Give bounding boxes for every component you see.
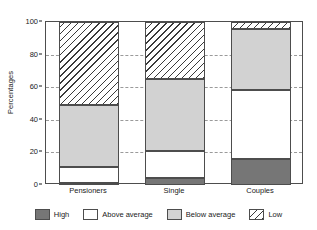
y-tick-mark <box>39 151 42 152</box>
legend-label: Low <box>268 210 282 219</box>
y-tick-mark <box>39 86 42 87</box>
stacked-bar-chart: Percentages 020406080100 PensionersSingl… <box>0 0 317 230</box>
bar-segment-below-average <box>231 29 291 91</box>
y-tick-label: 0 <box>34 180 38 189</box>
x-axis: PensionersSingleCouples <box>45 186 303 202</box>
bars-layer <box>46 22 302 183</box>
x-tick-label-single: Single <box>164 186 185 195</box>
bar-segment-low <box>59 22 119 105</box>
y-tick-mark <box>39 53 42 54</box>
legend-swatch-icon <box>249 209 264 220</box>
bar-segment-below-average <box>145 79 205 151</box>
bar-single <box>145 22 205 183</box>
bar-pensioners <box>59 22 119 183</box>
bar-segment-below-average <box>59 105 119 167</box>
y-tick-label: 20 <box>30 147 38 156</box>
y-axis-title-text: Percentages <box>7 71 16 114</box>
legend-label: Above average <box>102 210 152 219</box>
legend-item-below-average[interactable]: Below average <box>167 209 236 220</box>
bar-segment-high <box>145 178 205 185</box>
y-axis-title: Percentages <box>4 0 18 185</box>
legend-item-above-average[interactable]: Above average <box>83 209 152 220</box>
bar-segment-low <box>231 22 291 29</box>
legend-label: High <box>54 210 69 219</box>
y-tick-label: 40 <box>30 114 38 123</box>
bar-segment-above-average <box>59 167 119 183</box>
y-tick-mark <box>39 118 42 119</box>
y-tick-label: 60 <box>30 82 38 91</box>
y-tick-mark <box>39 21 42 22</box>
plot-area <box>45 21 303 184</box>
bar-segment-low <box>145 22 205 79</box>
legend-item-low[interactable]: Low <box>249 209 282 220</box>
bar-couples <box>231 22 291 183</box>
bar-segment-above-average <box>231 90 291 158</box>
bar-segment-above-average <box>145 151 205 179</box>
bar-segment-high <box>231 159 291 185</box>
y-tick-mark <box>39 184 42 185</box>
y-axis: 020406080100 <box>18 21 42 184</box>
legend-swatch-icon <box>35 209 50 220</box>
legend-label: Below average <box>186 210 236 219</box>
legend-item-high[interactable]: High <box>35 209 69 220</box>
y-tick-label: 100 <box>25 17 38 26</box>
x-tick-label-pensioners: Pensioners <box>69 186 107 195</box>
chart-legend: HighAbove averageBelow averageLow <box>0 205 317 223</box>
x-tick-label-couples: Couples <box>246 186 274 195</box>
legend-swatch-icon <box>167 209 182 220</box>
legend-swatch-icon <box>83 209 98 220</box>
y-tick-label: 80 <box>30 49 38 58</box>
